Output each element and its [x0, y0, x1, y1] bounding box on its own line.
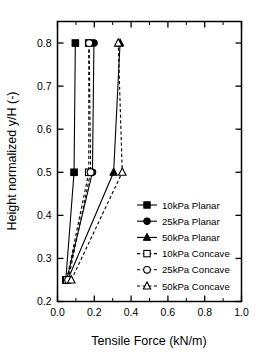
data-point-marker [144, 250, 150, 256]
y-tick-label: 0.5 [37, 166, 52, 178]
x-tick-label: 0.4 [124, 306, 139, 318]
data-point-marker [86, 40, 93, 47]
data-point-marker [144, 202, 150, 208]
y-axis-title: Height normalized y/H (-) [5, 92, 19, 231]
data-point-marker [72, 40, 79, 47]
x-tick-label: 0.8 [197, 306, 212, 318]
x-tick-label: 0.0 [50, 306, 65, 318]
legend-item-label: 50kPa Concave [162, 281, 230, 292]
tensile-force-chart: 0.00.20.40.60.81.0 0.20.30.40.50.60.70.8… [0, 0, 264, 359]
legend-item-label: 10kPa Planar [162, 200, 220, 211]
y-tick-label: 0.8 [37, 37, 52, 49]
x-tick-label: 0.6 [161, 306, 176, 318]
x-tick-label: 1.0 [234, 306, 249, 318]
y-tick-label: 0.4 [37, 209, 52, 221]
legend-item-label: 50kPa Planar [162, 232, 220, 243]
data-point-marker [71, 169, 78, 176]
legend-item-label: 25kPa Concave [162, 264, 230, 275]
y-tick-label: 0.7 [37, 80, 52, 92]
y-tick-label: 0.6 [37, 123, 52, 135]
y-tick-label: 0.3 [37, 252, 52, 264]
y-tick-label: 0.2 [37, 295, 52, 307]
data-point-marker [144, 218, 151, 225]
x-axis-title: Tensile Force (kN/m) [91, 334, 206, 348]
data-point-marker [144, 266, 151, 273]
legend-item-label: 25kPa Planar [162, 216, 220, 227]
x-tick-label: 0.2 [87, 306, 102, 318]
data-point-marker [87, 169, 94, 176]
legend-item-label: 10kPa Concave [162, 248, 230, 259]
